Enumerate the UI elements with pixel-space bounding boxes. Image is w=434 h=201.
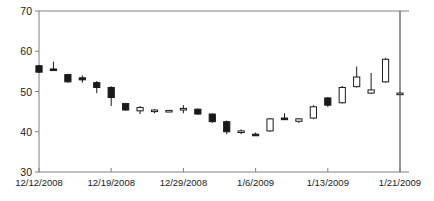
candle-body xyxy=(339,87,345,102)
candle-body xyxy=(253,134,259,136)
candle xyxy=(123,103,129,111)
candle-body xyxy=(166,110,172,112)
x-axis-tick-label: 1/13/2009 xyxy=(307,177,349,188)
candle-body xyxy=(79,78,85,80)
y-axis-tick-label: 70 xyxy=(20,5,32,17)
candle-body xyxy=(296,119,302,121)
x-axis: 12/12/200812/19/200812/29/20081/6/20091/… xyxy=(15,11,421,188)
candle xyxy=(209,113,215,123)
candle-body xyxy=(65,75,71,82)
candle xyxy=(50,62,56,71)
y-axis: 3040506070 xyxy=(20,5,39,178)
candle xyxy=(397,92,403,94)
y-axis-tick-label: 60 xyxy=(20,45,32,57)
candle xyxy=(296,118,302,123)
candle-body xyxy=(224,122,230,132)
candle xyxy=(310,105,316,119)
x-axis-tick-label: 12/12/2008 xyxy=(15,177,63,188)
candle-body xyxy=(209,114,215,122)
candle-body xyxy=(94,83,100,88)
candle-body xyxy=(354,77,360,87)
candle-body xyxy=(382,59,388,82)
candle xyxy=(224,120,230,134)
x-axis-tick-label: 12/19/2008 xyxy=(87,177,135,188)
candle-body xyxy=(180,108,186,110)
candle xyxy=(137,106,143,114)
x-axis-tick-label: 12/29/2008 xyxy=(160,177,208,188)
candle xyxy=(354,67,360,88)
y-axis-tick-label: 50 xyxy=(20,86,32,98)
candle-body xyxy=(267,119,273,131)
candle xyxy=(79,75,85,82)
candle-body xyxy=(195,109,201,114)
chart-canvas: 3040506070 12/12/200812/19/200812/29/200… xyxy=(0,0,434,201)
candle-body xyxy=(310,107,316,118)
candle xyxy=(267,118,273,132)
candle xyxy=(281,113,287,119)
y-axis-tick-label: 40 xyxy=(20,126,32,138)
candle xyxy=(36,65,42,73)
candle-body xyxy=(151,110,157,112)
candle-series xyxy=(36,58,403,136)
candle xyxy=(382,58,388,83)
candle xyxy=(65,74,71,83)
candle-body xyxy=(397,93,403,95)
candle xyxy=(195,108,201,114)
candle-body xyxy=(36,66,42,72)
x-axis-tick-label: 1/6/2009 xyxy=(237,177,274,188)
candle-body xyxy=(325,98,331,105)
candle-body xyxy=(238,131,244,133)
candle xyxy=(339,86,345,104)
candlestick-chart: 3040506070 12/12/200812/19/200812/29/200… xyxy=(0,0,434,201)
candle-body xyxy=(137,108,143,111)
candle-body xyxy=(368,90,374,93)
candle xyxy=(253,133,259,136)
candle xyxy=(180,105,186,113)
candle xyxy=(151,109,157,113)
candle-body xyxy=(123,104,129,110)
candle xyxy=(94,81,100,93)
x-axis-tick-label: 1/21/2009 xyxy=(379,177,421,188)
candle xyxy=(238,129,244,134)
candle-body xyxy=(50,69,56,71)
candle xyxy=(166,110,172,112)
candle xyxy=(108,86,114,106)
candle xyxy=(368,73,374,94)
candle-body xyxy=(281,118,287,120)
candle xyxy=(325,97,331,107)
candle-body xyxy=(108,87,114,97)
